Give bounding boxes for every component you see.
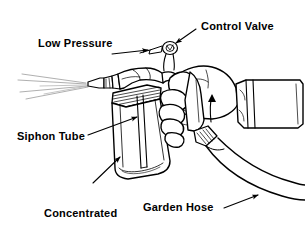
shirt-cuff (236, 80, 303, 128)
label-concentrated-pesticide: Concentrated Pesticide (44, 185, 117, 225)
spray-fan (18, 74, 88, 99)
leader-control-valve (176, 29, 196, 43)
label-siphon-tube: Siphon Tube (17, 131, 85, 143)
control-valve-knob (140, 42, 178, 72)
hose-coupling (194, 126, 224, 150)
garden-hose (206, 138, 305, 200)
pesticide-sprayer-diagram: Control Valve Low Pressure Siphon Tube C… (0, 0, 305, 225)
label-low-pressure: Low Pressure (38, 38, 113, 50)
leader-garden-hose (224, 195, 258, 208)
label-garden-hose: Garden Hose (143, 202, 214, 214)
nozzle (88, 74, 120, 89)
label-control-valve: Control Valve (201, 21, 274, 33)
label-concentrated-line1: Concentrated (44, 208, 117, 220)
